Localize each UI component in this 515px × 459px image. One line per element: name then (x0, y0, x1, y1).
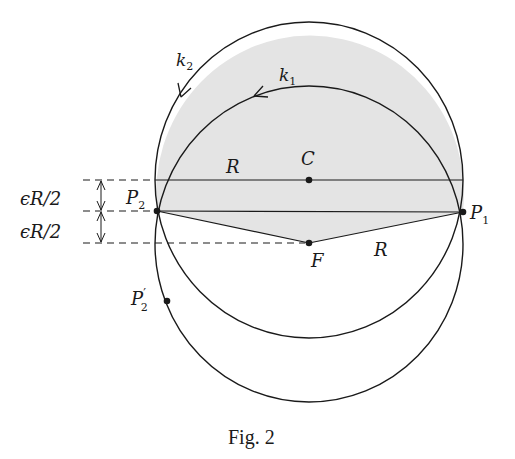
dimension-arrow-upper (97, 181, 105, 210)
arrowhead-k2-icon (178, 83, 191, 97)
point-c (306, 177, 313, 184)
label-r-upper: R (225, 156, 240, 177)
label-p2: P2 (125, 187, 145, 212)
figure-caption: Fig. 2 (228, 426, 275, 449)
point-p2-prime (164, 298, 171, 305)
point-p2 (154, 208, 161, 215)
label-k2: k2 (176, 50, 193, 73)
point-p1 (460, 209, 467, 216)
point-f (306, 240, 313, 247)
label-epsilon-r-half-lower: ϵR/2 (20, 221, 61, 242)
dimension-arrow-lower (97, 212, 105, 242)
label-p2-prime: P′2 (130, 287, 148, 314)
label-epsilon-r-half-upper: ϵR/2 (20, 188, 61, 209)
label-c: C (301, 148, 315, 169)
label-p1: P1 (469, 202, 489, 227)
label-f: F (310, 250, 325, 271)
figure-diagram: k2 k1 C R F R P1 P2 P′2 ϵR/2 ϵR/2 Fig. 2 (0, 0, 515, 459)
label-r-lower: R (373, 239, 388, 260)
